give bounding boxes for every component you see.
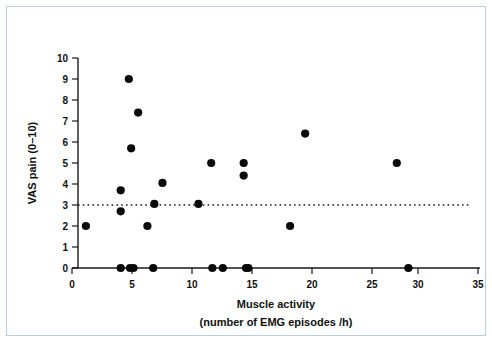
data-point (143, 222, 151, 230)
y-tick-label: 7 (62, 116, 68, 127)
y-tick-label: 4 (62, 179, 68, 190)
y-tick-label: 1 (62, 242, 68, 253)
y-tick-label: 6 (62, 137, 68, 148)
x-tick-label: 25 (366, 279, 378, 290)
figure-container: VAS pain (0–10) 10 9 (0, 0, 492, 342)
data-point (244, 264, 252, 272)
data-point (207, 159, 215, 167)
y-tick-label: 3 (62, 200, 68, 211)
data-point (82, 222, 90, 230)
data-point (117, 207, 125, 215)
plot-svg: VAS pain (0–10) 10 9 (0, 0, 492, 342)
x-tick-label: 35 (472, 279, 484, 290)
data-point (286, 222, 294, 230)
data-point (404, 264, 412, 272)
data-point (117, 186, 125, 194)
y-tick-labels: 10 9 8 7 6 5 4 3 2 1 0 (57, 53, 69, 274)
y-tick-label: 9 (62, 74, 68, 85)
data-point (158, 179, 166, 187)
x-tick-label: 10 (186, 279, 198, 290)
y-tick-label: 10 (57, 53, 69, 64)
y-axis-title: VAS pain (0–10) (26, 122, 38, 205)
y-tick-label: 0 (62, 263, 68, 274)
data-point (240, 172, 248, 180)
x-tick-label: 5 (129, 279, 135, 290)
data-point (125, 75, 133, 83)
data-point (219, 264, 227, 272)
data-point (129, 264, 137, 272)
data-point (117, 264, 125, 272)
data-points-layer (82, 75, 413, 272)
data-point (240, 159, 248, 167)
data-point (150, 200, 158, 208)
x-axis-title-line2: (number of EMG episodes /h) (200, 316, 353, 328)
y-tick-marks (72, 58, 78, 268)
y-tick-label: 8 (62, 95, 68, 106)
x-tick-label: 0 (69, 279, 75, 290)
data-point (134, 109, 142, 117)
x-tick-label: 30 (412, 279, 424, 290)
x-tick-label: 20 (306, 279, 318, 290)
data-point (208, 264, 216, 272)
data-point (127, 144, 135, 152)
scatter-plot: VAS pain (0–10) 10 9 (0, 0, 492, 342)
data-point (301, 130, 309, 138)
data-point (194, 200, 202, 208)
data-point (393, 159, 401, 167)
y-tick-label: 5 (62, 158, 68, 169)
x-tick-label: 15 (246, 279, 258, 290)
y-tick-label: 2 (62, 221, 68, 232)
x-axis-title-line1: Muscle activity (237, 298, 316, 310)
x-tick-labels: 0 5 10 15 20 25 30 35 (69, 279, 484, 290)
data-point (149, 264, 157, 272)
